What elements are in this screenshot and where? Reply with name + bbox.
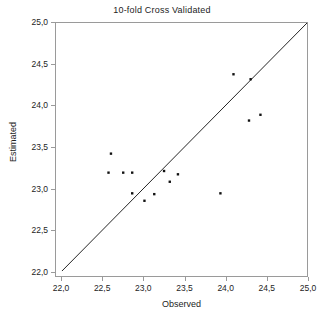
data-point: [131, 171, 133, 173]
scatter-plot-figure: 10-fold Cross Validated Estimated Observ…: [0, 0, 324, 321]
x-axis-tick-mark: [267, 277, 268, 281]
x-axis-tick-label: 23,5: [176, 283, 193, 293]
data-point: [232, 73, 234, 75]
y-axis-tick-label: 24,0: [8, 100, 48, 110]
y-axis-tick-label: 22,0: [8, 267, 48, 277]
data-point: [122, 171, 124, 173]
x-axis-tick-label: 25,0: [300, 283, 317, 293]
data-point: [143, 200, 145, 202]
x-axis-tick-mark: [185, 277, 186, 281]
data-point: [131, 192, 133, 194]
data-point: [248, 119, 250, 121]
y-axis-tick-label: 22,5: [8, 225, 48, 235]
data-point: [169, 181, 171, 183]
x-axis-title: Observed: [55, 299, 308, 309]
data-point: [153, 193, 155, 195]
x-axis-tick-label: 22,0: [53, 283, 70, 293]
x-axis-tick-mark: [143, 277, 144, 281]
data-point: [110, 152, 112, 154]
x-axis-tick-mark: [61, 277, 62, 281]
y-axis-tick-label: 23,5: [8, 142, 48, 152]
x-axis-tick-label: 22,5: [94, 283, 111, 293]
data-point: [177, 173, 179, 175]
x-axis-tick-mark: [102, 277, 103, 281]
data-point: [219, 192, 221, 194]
y-axis-tick-label: 23,0: [8, 184, 48, 194]
identity-reference-line: [62, 23, 307, 271]
x-axis-tick-mark: [226, 277, 227, 281]
x-axis-tick-label: 23,0: [135, 283, 152, 293]
x-axis-tick-mark: [308, 277, 309, 281]
x-axis-tick-label: 24,0: [217, 283, 234, 293]
data-point: [259, 114, 261, 116]
x-axis-tick-label: 24,5: [259, 283, 276, 293]
chart-title: 10-fold Cross Validated: [0, 5, 324, 15]
data-point: [163, 170, 165, 172]
data-point: [107, 171, 109, 173]
y-axis-tick-label: 24,5: [8, 59, 48, 69]
y-axis-tick-label: 25,0: [8, 17, 48, 27]
data-point: [249, 78, 251, 80]
plot-area: [55, 22, 308, 277]
plot-canvas: [56, 23, 307, 276]
